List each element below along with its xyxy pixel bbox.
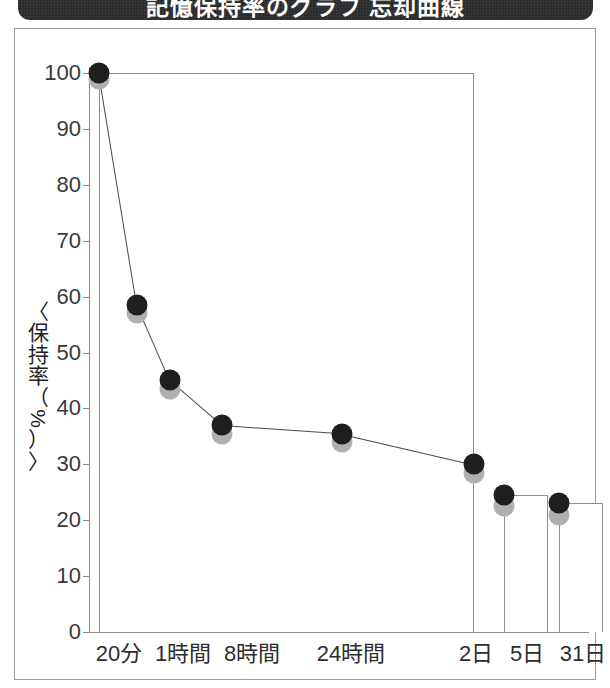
y-tick-label-wrap: 30 [15, 464, 81, 465]
y-axis-tick [83, 353, 90, 354]
title-banner: 記憶保持率のグラフ 忘却曲線 [18, 0, 593, 20]
y-tick-label-wrap: 60 [15, 297, 81, 298]
y-axis-tick [83, 464, 90, 465]
data-point-black [89, 63, 110, 84]
y-tick-label-wrap: 90 [15, 129, 81, 130]
x-axis-label: 31日 [560, 643, 606, 665]
y-title-char-3: 率 [23, 365, 53, 386]
x-axis-label: 24時間 [317, 643, 385, 665]
y-axis-tick [83, 632, 90, 633]
y-tick-label-wrap: 10 [15, 576, 81, 577]
data-point-black [464, 454, 485, 475]
bar-span-20min-2days [99, 73, 474, 632]
y-axis-tick [83, 520, 90, 521]
data-point-black [160, 370, 181, 391]
data-point-black [127, 294, 148, 315]
y-axis-tick-label: 70 [35, 230, 81, 252]
x-axis-label: 5日 [510, 643, 544, 665]
data-point-black [494, 485, 515, 506]
bar-5days [504, 495, 548, 632]
banner-title-text: 記憶保持率のグラフ 忘却曲線 [18, 0, 593, 19]
x-axis-label: 20分 [96, 643, 142, 665]
data-point-black [332, 423, 353, 444]
y-axis-tick-label: 30 [35, 453, 81, 475]
y-tick-label-wrap: 20 [15, 520, 81, 521]
y-tick-label-wrap: 50 [15, 353, 81, 354]
y-tick-label-wrap: 0 [15, 632, 81, 633]
y-axis-line [89, 67, 90, 633]
y-axis-tick-label: 20 [35, 509, 81, 531]
y-tick-label-wrap: 70 [15, 241, 81, 242]
y-axis-tick [83, 129, 90, 130]
x-axis-label: 8時間 [224, 643, 280, 665]
data-point-black [212, 415, 233, 436]
chart-figure: 〈 保 持 率 （ % ） 〉 100908070605040302010020… [14, 28, 596, 680]
y-axis-tick-label: 0 [35, 621, 81, 643]
y-axis-tick-label: 50 [35, 342, 81, 364]
y-axis-tick [83, 408, 90, 409]
y-tick-label-wrap: 80 [15, 185, 81, 186]
y-axis-tick [83, 297, 90, 298]
y-axis-title: 〈 保 持 率 （ % ） 〉 [23, 301, 53, 472]
data-point-black [549, 493, 570, 514]
y-axis-tick-label: 10 [35, 565, 81, 587]
y-axis-tick [83, 185, 90, 186]
x-axis-label: 1時間 [155, 643, 211, 665]
y-axis-tick-label: 40 [35, 397, 81, 419]
y-axis-tick-label: 90 [35, 118, 81, 140]
y-axis-tick [83, 576, 90, 577]
y-tick-label-wrap: 100 [15, 73, 81, 74]
y-axis-tick-label: 60 [35, 286, 81, 308]
y-tick-label-wrap: 40 [15, 408, 81, 409]
y-axis-tick [83, 241, 90, 242]
y-axis-tick-label: 80 [35, 174, 81, 196]
x-axis-line [89, 632, 589, 633]
x-axis-label: 2日 [459, 643, 493, 665]
y-axis-tick-label: 100 [35, 62, 81, 84]
plot-area: 〈 保 持 率 （ % ） 〉 100908070605040302010020… [15, 29, 597, 681]
